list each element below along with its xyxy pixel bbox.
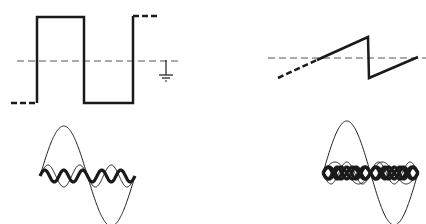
square-wave-trace [37,16,133,103]
ground-icon [159,60,173,81]
sawtooth-wave-panel [268,37,426,78]
sawtooth-harmonics-panel [323,121,418,224]
square-wave-panel [11,16,179,103]
square-harmonics-panel [40,126,135,224]
waveform-diagram [0,0,426,224]
sawtooth-dashed-lead [278,60,317,78]
